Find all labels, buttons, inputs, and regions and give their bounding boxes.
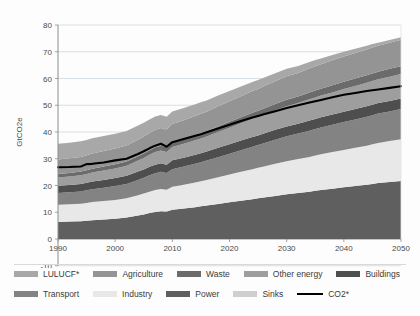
legend-item-other-energy[interactable]: Other energy <box>244 269 323 279</box>
legend-item-sinks[interactable]: Sinks <box>233 289 283 299</box>
legend-label: Sinks <box>262 289 283 299</box>
x-tick-label: 2020 <box>221 244 239 253</box>
legend-label: Buildings <box>365 269 400 279</box>
emissions-stacked-area-chart: -1001020304050607080 1990200020102020203… <box>0 0 420 268</box>
legend-label: Transport <box>43 289 79 299</box>
chart-legend: LULUCF*AgricultureWasteOther energyBuild… <box>0 264 420 316</box>
legend-label: Waste <box>206 269 230 279</box>
legend-color-swatch <box>14 291 38 297</box>
legend-item-lulucf[interactable]: LULUCF* <box>14 269 79 279</box>
legend-label: CO2* <box>328 289 349 299</box>
legend-item-industry[interactable]: Industry <box>93 289 152 299</box>
legend-color-swatch <box>244 271 268 277</box>
legend-label: Industry <box>122 289 152 299</box>
chart-screenshot: -1001020304050607080 1990200020102020203… <box>0 0 420 316</box>
x-tick-label: 2000 <box>106 244 124 253</box>
legend-label: Other energy <box>273 269 323 279</box>
y-tick-label: 10 <box>43 208 52 217</box>
legend-divider <box>14 264 406 265</box>
legend-color-swatch <box>177 271 201 277</box>
legend-item-waste[interactable]: Waste <box>177 269 230 279</box>
legend-color-swatch <box>233 291 257 297</box>
x-tick-labels: 1990200020102020203020402050 <box>49 244 410 253</box>
stacked-areas <box>58 37 401 239</box>
legend-label: Power <box>195 289 219 299</box>
x-tick-label: 2040 <box>335 244 353 253</box>
y-axis-title: GtCO2e <box>15 117 24 147</box>
legend-row-1: LULUCF*AgricultureWasteOther energyBuild… <box>0 264 420 284</box>
x-tick-label: 1990 <box>49 244 67 253</box>
legend-color-swatch <box>93 271 117 277</box>
legend-item-agriculture[interactable]: Agriculture <box>93 269 163 279</box>
legend-color-swatch <box>166 291 190 297</box>
x-tick-label: 2050 <box>392 244 410 253</box>
y-tick-label: 40 <box>43 128 52 137</box>
legend-item-transport[interactable]: Transport <box>14 289 79 299</box>
y-tick-label: 30 <box>43 155 52 164</box>
legend-item-co2[interactable]: CO2* <box>297 289 349 299</box>
y-tick-label: 60 <box>43 75 52 84</box>
y-tick-label: 50 <box>43 101 52 110</box>
y-tick-label: 20 <box>43 182 52 191</box>
x-tick-label: 2010 <box>163 244 181 253</box>
y-tick-label: 70 <box>43 48 52 57</box>
y-axis-title-text: GtCO2e <box>15 117 24 147</box>
plot-area: -1001020304050607080 1990200020102020203… <box>0 0 420 268</box>
legend-item-power[interactable]: Power <box>166 289 219 299</box>
legend-color-swatch <box>93 291 117 297</box>
legend-label: Agriculture <box>122 269 163 279</box>
y-tick-label: 80 <box>43 21 52 30</box>
legend-label: LULUCF* <box>43 269 79 279</box>
legend-color-swatch <box>14 271 38 277</box>
legend-row-2: TransportIndustryPowerSinksCO2* <box>0 284 420 304</box>
y-tick-labels: -1001020304050607080 <box>40 21 52 268</box>
legend-color-swatch <box>336 271 360 277</box>
y-tick-label: 0 <box>48 235 53 244</box>
legend-line-swatch <box>297 293 323 295</box>
x-tick-label: 2030 <box>278 244 296 253</box>
legend-item-buildings[interactable]: Buildings <box>336 269 400 279</box>
